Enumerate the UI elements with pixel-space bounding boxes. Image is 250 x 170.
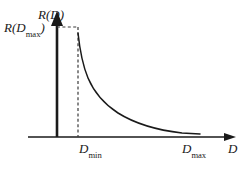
dmax-subscript: max [191, 150, 206, 160]
x-axis-label: D [228, 142, 237, 155]
x-axis-arrowhead [224, 133, 236, 141]
dmin-subscript: min [88, 150, 101, 160]
x-tick-label-dmin: Dmin [79, 142, 102, 155]
y-intercept-label: R(Dmax) [4, 21, 45, 34]
y-intercept-subscript: max [26, 29, 41, 39]
x-tick-label-dmax: Dmax [182, 142, 206, 155]
rate-distortion-figure: R(D) R(Dmax) Dmin Dmax D [0, 0, 250, 170]
x-axis [28, 133, 236, 141]
rate-distortion-curve [78, 33, 200, 134]
y-axis [51, 11, 63, 137]
